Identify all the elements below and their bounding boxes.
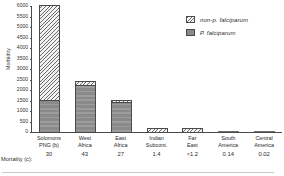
category-column: IndianSubcont.1.4 [139, 134, 175, 158]
bar-segment-zero [254, 131, 275, 133]
mortality-row-label: Mortality (c): [1, 156, 32, 162]
category-column: WestAfrica43 [67, 134, 103, 158]
stacked-bar [182, 128, 203, 132]
stacked-bar [111, 100, 132, 132]
y-axis-title: Morbidity [5, 29, 11, 89]
mortality-value: 30 [31, 150, 67, 158]
y-axis-tick-label: 6000 [17, 2, 28, 8]
y-axis-tick-label: 4000 [17, 44, 28, 50]
category-column: SouthAmerica0.14 [210, 134, 246, 158]
x-axis-category-label: America [246, 142, 282, 149]
x-axis-category-label: America [210, 142, 246, 149]
bar-segment-non-p-falciparum [182, 128, 203, 132]
bar-slot [68, 6, 104, 132]
y-axis-tick-label: 4500 [17, 34, 28, 40]
x-axis-category-label: PNG (b) [31, 142, 67, 149]
mortality-value: 27 [103, 150, 139, 158]
y-axis-tick-label: 1500 [17, 97, 28, 103]
x-axis-category-label: Central [246, 135, 282, 142]
bar-segment-zero [218, 131, 239, 133]
bar-segment-non-p-falciparum [147, 128, 168, 132]
stacked-bar [147, 128, 168, 132]
mortality-value: 1.4 [139, 150, 175, 158]
stacked-bar [39, 5, 60, 132]
bar-slot [246, 6, 282, 132]
legend-label-p-falciparum: P. falciparum [200, 30, 236, 36]
y-axis-tick-mark [30, 132, 32, 133]
category-and-mortality-table: Mortality (c): SolomonsPNG (b)30WestAfri… [0, 134, 284, 174]
x-axis-category-label: Africa [103, 142, 139, 149]
x-axis-category-label: Subcont. [139, 142, 175, 149]
mortality-value: 0.14 [210, 150, 246, 158]
y-axis-tick-label: 2000 [17, 86, 28, 92]
bar-segment-p-falciparum [111, 102, 132, 132]
y-axis-tick-label: 5000 [17, 23, 28, 29]
x-axis-category-label: Solomons [31, 135, 67, 142]
stacked-bar [218, 131, 239, 133]
legend-label-non-p-falciparum: non-p. falciparum [200, 17, 248, 23]
bar-slot [103, 6, 139, 132]
x-axis-category-label: West [67, 135, 103, 142]
x-axis-category-label: East [174, 142, 210, 149]
hatched-swatch-icon [186, 16, 195, 23]
y-axis-tick-label: 3000 [17, 65, 28, 71]
chart-legend: non-p. falciparum P. falciparum [186, 16, 248, 42]
legend-item-p-falciparum: P. falciparum [186, 29, 248, 36]
stacked-bar [254, 131, 275, 133]
bar-segment-non-p-falciparum [39, 5, 60, 100]
mortality-value: 0.02 [246, 150, 282, 158]
bar-slot [139, 6, 175, 132]
category-column: SolomonsPNG (b)30 [31, 134, 67, 158]
x-axis-category-label: East [103, 135, 139, 142]
footer-divider [2, 172, 274, 173]
mortality-value: 43 [67, 150, 103, 158]
category-column: EastAfrica27 [103, 134, 139, 158]
y-axis-tick-label: 2500 [17, 76, 28, 82]
category-column: FarEast<1.2 [174, 134, 210, 158]
y-axis-tick-label: 1000 [17, 107, 28, 113]
mortality-value: <1.2 [174, 150, 210, 158]
bar-slot [32, 6, 68, 132]
y-axis-tick-label: 5500 [17, 13, 28, 19]
y-axis-tick-label: 3500 [17, 55, 28, 61]
x-axis-category-label: Indian [139, 135, 175, 142]
bar-segment-p-falciparum [39, 100, 60, 132]
category-column: CentralAmerica0.02 [246, 134, 282, 158]
stacked-bar [75, 81, 96, 132]
x-axis-category-label: South [210, 135, 246, 142]
solid-swatch-icon [186, 29, 195, 36]
x-axis-category-label: Far [174, 135, 210, 142]
bar-segment-p-falciparum [75, 85, 96, 132]
category-columns: SolomonsPNG (b)30WestAfrica43EastAfrica2… [31, 134, 282, 158]
x-axis-category-label: Africa [67, 142, 103, 149]
legend-item-non-p-falciparum: non-p. falciparum [186, 16, 248, 23]
morbidity-mortality-bar-chart: Morbidity 050010001500200025003000350040… [0, 0, 284, 176]
y-axis-tick-label: 500 [20, 118, 28, 124]
